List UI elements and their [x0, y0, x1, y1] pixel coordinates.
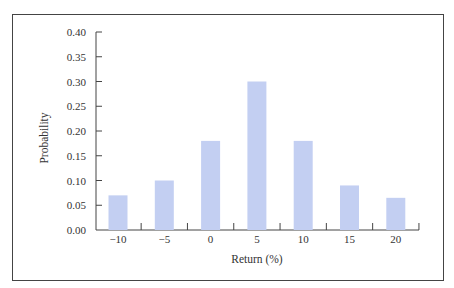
x-tick-label: −5: [158, 233, 170, 245]
bar: [201, 141, 220, 230]
bar: [109, 195, 128, 230]
y-tick-label: 0.10: [67, 175, 87, 187]
y-tick-label: 0.00: [67, 224, 87, 236]
y-axis: 0.000.050.100.150.200.250.300.350.40: [67, 26, 102, 236]
bar: [386, 198, 405, 230]
bar: [247, 82, 266, 231]
y-tick-label: 0.35: [67, 51, 87, 63]
x-axis-title: Return (%): [231, 253, 283, 266]
y-tick-label: 0.30: [67, 76, 87, 88]
y-tick-label: 0.40: [67, 26, 87, 38]
y-axis-title: Probability: [38, 112, 51, 163]
y-tick-label: 0.20: [67, 125, 87, 137]
y-tick-label: 0.15: [67, 150, 87, 162]
bar: [155, 181, 174, 231]
bar: [294, 141, 313, 230]
x-tick-label: −10: [109, 233, 127, 245]
bar: [340, 185, 359, 230]
y-tick-label: 0.25: [67, 100, 87, 112]
x-tick-label: 15: [344, 233, 356, 245]
bar-chart: 0.000.050.100.150.200.250.300.350.40 −10…: [0, 0, 454, 288]
x-tick-label: 20: [390, 233, 402, 245]
x-tick-label: 0: [208, 233, 214, 245]
y-tick-label: 0.05: [67, 199, 87, 211]
x-tick-label: 10: [298, 233, 310, 245]
bars: [109, 82, 406, 231]
x-tick-label: 5: [254, 233, 260, 245]
